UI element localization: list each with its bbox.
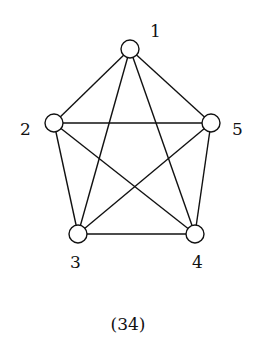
edge-3-5 bbox=[78, 123, 211, 234]
node-3 bbox=[69, 225, 87, 243]
node-5 bbox=[202, 114, 220, 132]
edge-1-5 bbox=[130, 49, 211, 123]
node-label-4: 4 bbox=[192, 252, 203, 272]
edge-1-3 bbox=[78, 49, 130, 234]
edge-4-5 bbox=[195, 123, 211, 234]
node-label-5: 5 bbox=[232, 119, 243, 139]
node-4 bbox=[186, 225, 204, 243]
edge-2-4 bbox=[54, 123, 195, 234]
complete-graph-k5: 12345 (34) bbox=[0, 0, 256, 346]
edge-1-4 bbox=[130, 49, 195, 234]
edges-group bbox=[54, 49, 211, 234]
node-2 bbox=[45, 114, 63, 132]
node-label-1: 1 bbox=[150, 21, 161, 41]
node-1 bbox=[121, 40, 139, 58]
node-label-2: 2 bbox=[20, 119, 31, 139]
node-label-3: 3 bbox=[70, 252, 81, 272]
figure-caption: (34) bbox=[111, 314, 146, 334]
nodes-group bbox=[45, 40, 220, 243]
edge-1-2 bbox=[54, 49, 130, 123]
